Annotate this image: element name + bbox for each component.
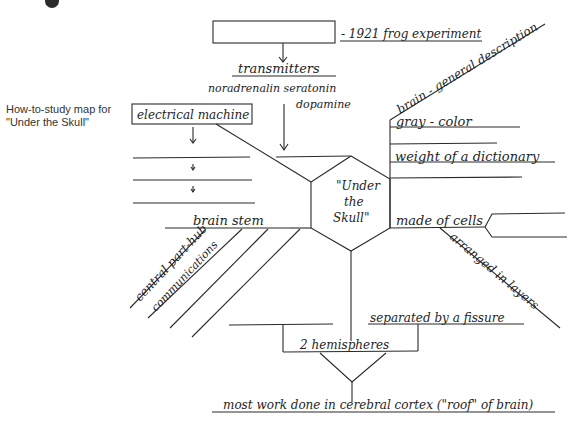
- hemispheres-label: 2 hemispheres: [299, 338, 389, 352]
- study-map-diagram: "Under the Skull" - 1921 frog experiment…: [0, 0, 581, 430]
- cells-branch-upper: [485, 213, 565, 227]
- top-connector-line: [276, 156, 350, 157]
- left-line-1: [133, 157, 250, 158]
- right-line-2: [390, 177, 522, 178]
- transmitters-items-1: noradrenalin seratonin: [208, 82, 336, 95]
- made-of-cells-label: made of cells: [396, 213, 483, 228]
- cells-branch-lower: [485, 227, 567, 237]
- funnel-v: [320, 353, 386, 382]
- transmitters-heading: transmitters: [238, 61, 320, 76]
- cortex-label: most work done in cerebral cortex ("roof…: [223, 398, 534, 412]
- hemisphere-top-line: [229, 324, 333, 325]
- right-line-1: [390, 143, 497, 144]
- frog-experiment-note: - 1921 frog experiment: [341, 27, 482, 41]
- center-label-2: the: [344, 195, 364, 209]
- transmitters-items-2: dopamine: [296, 98, 351, 111]
- separated-label: separated by a fissure: [370, 311, 505, 325]
- arranged-label: arranged in layers: [447, 230, 542, 313]
- center-label-1: "Under: [336, 179, 381, 193]
- frog-experiment-box: [213, 21, 335, 43]
- electrical-machine-label: electrical machine: [137, 108, 249, 122]
- center-label-3: Skull": [333, 211, 369, 225]
- left-connector-line: [216, 124, 311, 182]
